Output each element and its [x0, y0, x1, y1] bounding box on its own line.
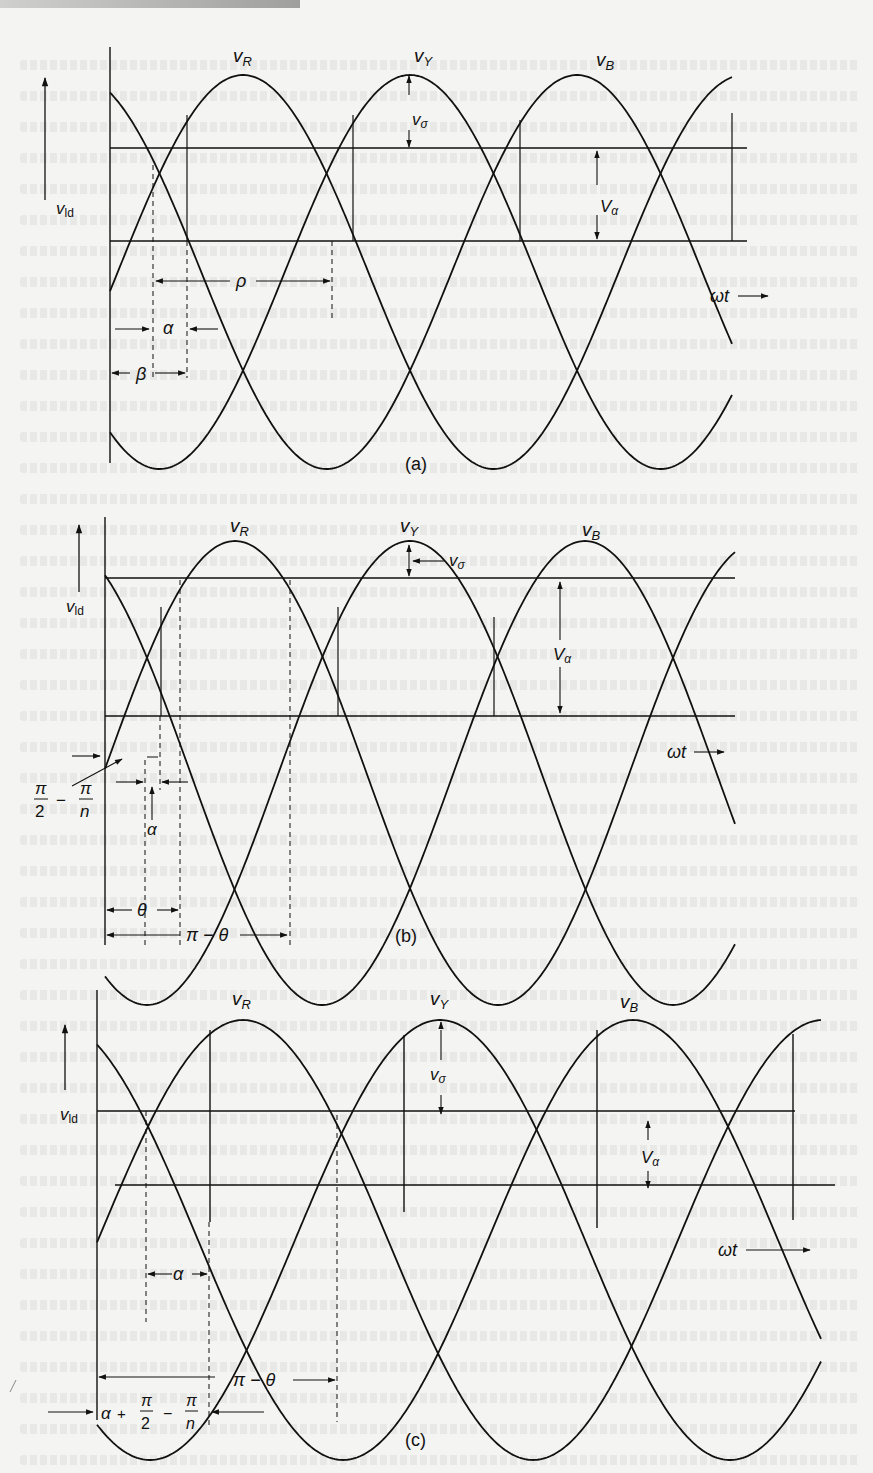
panel-a: vld vσ Vα ρ α	[45, 47, 768, 474]
waveform-figure: vld vσ Vα ρ α	[0, 0, 873, 1473]
reference-lines-c	[97, 1111, 835, 1185]
vld-label-a: vld	[56, 199, 74, 220]
svg-text:π: π	[141, 1392, 152, 1409]
svg-text:n: n	[80, 802, 89, 821]
stray-mark	[10, 1380, 16, 1392]
omega-t-label-b: ωt	[667, 742, 687, 762]
svg-text:+: +	[117, 1405, 126, 1422]
svg-text:−: −	[56, 791, 66, 810]
panel-b: vld π 2 − π n α	[34, 517, 735, 1005]
phase-wave-r	[97, 1020, 821, 1460]
phase-label-y: vY	[400, 515, 420, 539]
phase-wave-r	[110, 75, 732, 469]
vld-label-b: vld	[66, 597, 84, 618]
svg-text:α: α	[101, 1404, 112, 1423]
v-alpha-label-c: Vα	[641, 1148, 660, 1169]
reference-lines-b	[105, 578, 735, 716]
alpha-label-c: α	[173, 1264, 184, 1284]
phase-waveforms-c	[97, 1020, 821, 1460]
phase-label-y: vY	[414, 45, 434, 69]
alpha-label-a: α	[163, 318, 174, 338]
theta-label-b: θ	[137, 900, 147, 920]
svg-text:−: −	[163, 1405, 172, 1422]
caption-b: (b)	[395, 926, 417, 946]
phase-label-r: vR	[233, 45, 252, 69]
svg-text:π: π	[80, 779, 92, 798]
vld-label-c: vld	[60, 1105, 78, 1126]
omega-t-label-a: ωt	[710, 286, 730, 306]
caption-c: (c)	[405, 1430, 426, 1450]
phase-wave-b	[110, 75, 732, 469]
rho-label: ρ	[235, 271, 246, 291]
phase-label-y: vY	[430, 988, 450, 1012]
pi2-minus-pin-label: π 2 − π n	[34, 779, 93, 821]
phase-waveforms-a	[110, 75, 732, 469]
caption-a: (a)	[405, 454, 427, 474]
phase-label-b: vB	[596, 49, 615, 73]
panel-c: vld α π − θ α + π 2 − π	[10, 990, 835, 1460]
alpha-plus-pi2-minus-pin-label: α + π 2 − π n	[101, 1392, 198, 1432]
omega-t-label-c: ωt	[718, 1240, 738, 1260]
v-sigma-label-b: vσ	[449, 551, 466, 572]
beta-label: β	[135, 364, 146, 384]
pi-theta-label-b: π − θ	[186, 925, 229, 945]
svg-text:π: π	[186, 1392, 197, 1409]
svg-text:π: π	[35, 779, 47, 798]
v-alpha-label-a: Vα	[600, 197, 619, 218]
phase-label-b: vB	[582, 519, 601, 543]
alpha-label-b: α	[147, 820, 158, 839]
v-sigma-label-a: vσ	[412, 110, 429, 131]
pi-theta-label-c: π − θ	[233, 1370, 276, 1390]
phase-label-b: vB	[620, 991, 639, 1015]
textbook-page: vld vσ Vα ρ α	[0, 0, 873, 1473]
v-sigma-label-c: vσ	[430, 1065, 447, 1086]
svg-text:2: 2	[141, 1415, 150, 1432]
phase-label-r: vR	[232, 988, 251, 1012]
svg-text:n: n	[186, 1415, 195, 1432]
phase-label-r: vR	[230, 515, 249, 539]
phase-wave-y	[110, 75, 732, 469]
v-alpha-label-b: Vα	[553, 645, 572, 666]
svg-text:2: 2	[35, 802, 44, 821]
